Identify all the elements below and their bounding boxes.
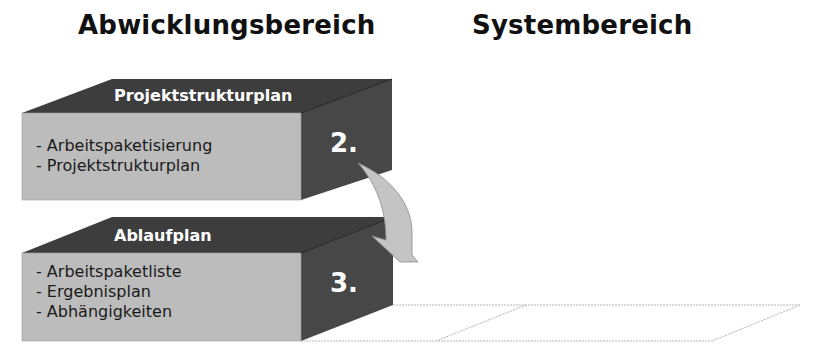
block-1-item-list: Arbeitspaketisierung Projektstrukturplan: [36, 136, 212, 176]
list-item: Ergebnisplan: [36, 282, 182, 302]
block-1-step-number: 2.: [330, 128, 358, 158]
block-2-item-list: Arbeitspaketliste Ergebnisplan Abhängigk…: [36, 262, 182, 322]
list-item: Arbeitspaketisierung: [36, 136, 212, 156]
list-item: Projektstrukturplan: [36, 156, 212, 176]
list-item: Arbeitspaketliste: [36, 262, 182, 282]
list-item: Abhängigkeiten: [36, 302, 182, 322]
block-1-title: Projektstrukturplan: [114, 86, 292, 105]
block-2-title: Ablaufplan: [114, 226, 212, 245]
block-2-step-number: 3.: [330, 268, 358, 298]
